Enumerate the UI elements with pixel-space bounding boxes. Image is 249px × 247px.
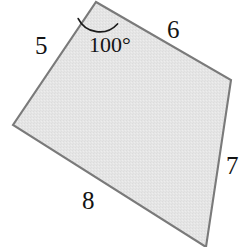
angle-label-100-degrees: 100°: [89, 34, 131, 56]
side-label-6: 6: [167, 17, 180, 42]
side-label-5: 5: [35, 33, 48, 58]
side-label-7: 7: [226, 153, 239, 178]
geometry-figure: 5 6 7 8 100°: [0, 0, 249, 247]
side-label-8: 8: [82, 188, 95, 213]
